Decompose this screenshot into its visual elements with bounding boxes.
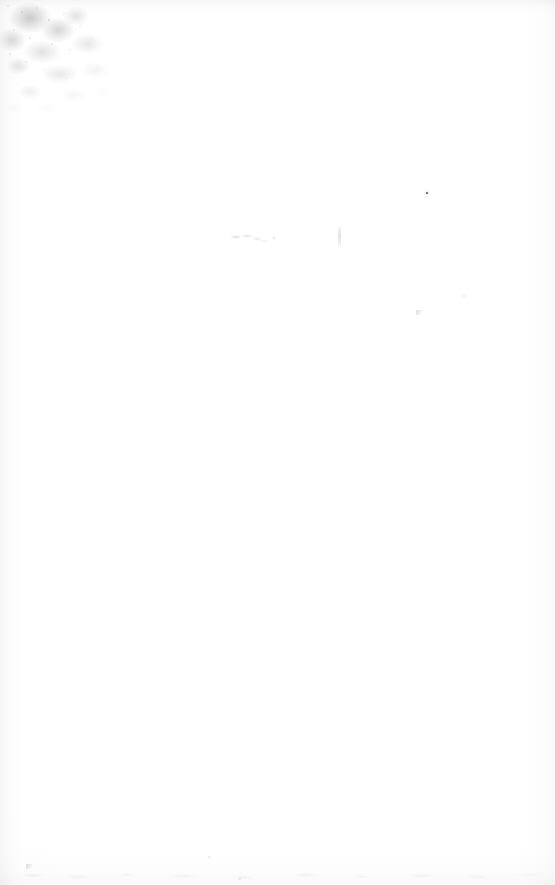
scanned-page (0, 0, 555, 885)
page-edge-shadow-right (525, 0, 555, 885)
page-edge-shadow-left (0, 0, 26, 885)
page-bottom-grain (0, 863, 555, 883)
page-body-text (58, 150, 498, 810)
page-edge-shadow-top (0, 0, 555, 16)
